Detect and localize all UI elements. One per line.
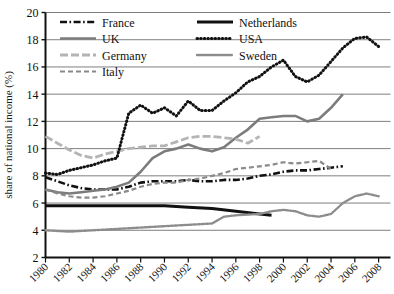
y-axis-title-text: share of national income (%)	[2, 71, 15, 199]
series-line-sweden	[46, 194, 379, 232]
legend-label-germany: Germany	[102, 49, 147, 63]
y-tick-label: 20	[27, 6, 39, 20]
legend-label-usa: USA	[239, 32, 263, 46]
x-tick-label: 1980	[26, 260, 50, 284]
line-chart: 2468101214161820 19801982198419861988199…	[0, 0, 394, 294]
x-tick-label: 1984	[74, 260, 98, 284]
y-tick-label: 6	[33, 197, 39, 211]
series-line-france	[46, 166, 343, 189]
y-tick-label: 4	[33, 224, 39, 238]
x-axis-ticks: 1980198219841986198819901992199419961998…	[26, 258, 383, 285]
y-axis-ticks: 2468101214161820	[27, 6, 46, 265]
legend-label-uk: UK	[102, 32, 120, 46]
chart-container: 2468101214161820 19801982198419861988199…	[0, 0, 394, 294]
data-series-group	[46, 37, 379, 232]
y-tick-label: 16	[27, 60, 39, 74]
legend-label-italy: Italy	[102, 65, 124, 79]
legend-label-netherlands: Netherlands	[239, 16, 297, 30]
x-tick-label: 1998	[241, 260, 265, 284]
legend-label-france: France	[102, 16, 135, 30]
y-axis-title: share of national income (%)	[2, 71, 15, 199]
x-tick-label: 2008	[359, 260, 383, 284]
x-tick-label: 1994	[193, 260, 217, 284]
x-tick-label: 1992	[169, 260, 193, 284]
x-tick-label: 1996	[217, 260, 241, 284]
series-line-usa	[46, 37, 379, 174]
x-tick-label: 2002	[288, 260, 312, 284]
chart-legend: FranceUKGermanyItalyNetherlandsUSASweden	[60, 16, 297, 80]
y-tick-label: 2	[33, 251, 39, 265]
legend-label-sweden: Sweden	[239, 49, 277, 63]
series-line-uk	[46, 94, 343, 193]
x-tick-label: 1982	[50, 260, 74, 284]
series-line-germany	[46, 136, 260, 158]
x-tick-label: 1990	[145, 260, 169, 284]
x-tick-label: 2000	[264, 260, 288, 284]
x-tick-label: 1986	[98, 260, 122, 284]
x-tick-label: 2006	[336, 260, 360, 284]
x-tick-label: 2004	[312, 260, 336, 284]
y-tick-label: 18	[27, 33, 39, 47]
y-tick-label: 8	[33, 169, 39, 183]
x-tick-label: 1988	[122, 260, 146, 284]
y-tick-label: 14	[27, 88, 39, 102]
y-tick-label: 10	[27, 142, 39, 156]
y-tick-label: 12	[27, 115, 39, 129]
series-line-netherlands	[46, 206, 272, 216]
